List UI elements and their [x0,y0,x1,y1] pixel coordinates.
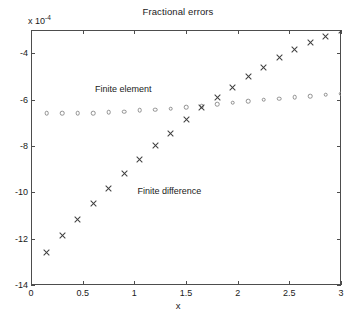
data-point-circle [215,102,220,107]
data-point-circle [168,106,173,111]
data-point-cross [90,200,97,207]
chart-figure: Fractional errors x 10-4 00.511.522.53-4… [0,0,356,318]
data-point-circle [339,91,341,96]
y-axis-tick-label: -12 [4,234,28,244]
data-point-cross [229,84,236,91]
data-point-cross [260,64,267,71]
data-point-circle [323,92,328,97]
data-point-circle [246,99,251,104]
x-axis-tick-label: 0.5 [76,288,89,298]
data-point-circle [277,97,282,102]
x-axis-tick [341,30,342,34]
data-point-cross [136,156,143,163]
y-axis-tick-label: -6 [4,95,28,105]
data-point-cross [43,249,50,256]
chart-plot-area [31,30,341,285]
y-axis-tick-label: -8 [4,141,28,151]
y-axis-exponent-base: x 10 [28,16,45,26]
data-point-circle [106,110,111,115]
x-axis-tick-label: 3 [338,288,343,298]
data-point-cross [198,104,205,111]
data-point-cross [291,46,298,53]
data-point-circle [75,111,80,116]
data-point-circle [230,100,235,105]
data-point-circle [153,107,158,112]
y-axis-exponent-label: x 10-4 [28,14,51,26]
data-point-cross [105,185,112,192]
data-point-circle [122,109,127,114]
data-point-cross [322,33,329,40]
x-axis-tick-label: 2 [235,288,240,298]
series-annotation-finite-element: Finite element [95,84,152,94]
data-point-circle [261,97,266,102]
data-point-cross [307,39,314,46]
data-point-cross [276,54,283,61]
data-point-circle [184,105,189,110]
x-axis-tick-label: 0 [28,288,33,298]
y-axis-tick-label: -14 [4,280,28,290]
x-axis-tick-label: 2.5 [283,288,296,298]
y-axis-exponent-power: -4 [45,14,51,21]
data-point-cross [152,142,159,149]
x-axis-label: x [0,300,356,311]
data-point-cross [245,73,252,80]
y-axis-tick-label: -4 [4,48,28,58]
data-point-cross [214,94,221,101]
y-axis-tick [31,285,35,286]
x-axis-tick-label: 1 [132,288,137,298]
data-point-circle [292,95,297,100]
data-point-circle [308,94,313,99]
data-point-circle [60,111,65,116]
data-point-cross [183,116,190,123]
x-axis-tick-label: 1.5 [180,288,193,298]
data-point-circle [44,111,49,116]
series-annotation-finite-difference: Finite difference [137,186,201,196]
data-point-cross [59,232,66,239]
data-point-circle [137,108,142,113]
data-point-cross [121,170,128,177]
y-axis-tick [337,285,341,286]
chart-title: Fractional errors [0,6,356,17]
x-axis-tick [341,281,342,285]
data-point-cross [167,130,174,137]
data-point-cross [338,30,342,34]
data-point-circle [91,111,96,116]
data-point-cross [74,216,81,223]
y-axis-tick-label: -10 [4,187,28,197]
